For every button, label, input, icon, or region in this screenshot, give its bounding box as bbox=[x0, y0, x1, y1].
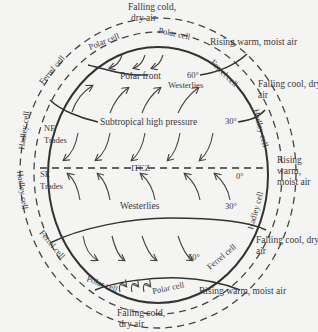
falling-top-label-1: Falling cool, dry bbox=[258, 79, 318, 89]
top-falling-label-2: dry air bbox=[131, 13, 157, 23]
westerlies-south-label: Westerlies bbox=[120, 201, 160, 211]
westerlies-north-label: Westerlies bbox=[168, 80, 203, 90]
ne-trades-arrows bbox=[64, 133, 213, 160]
lat-0: 0° bbox=[236, 171, 244, 181]
itcz-label: ITCZ bbox=[131, 163, 150, 173]
hadley-cell-l2: Hadley cell bbox=[15, 170, 30, 211]
falling-bot-label-1: Falling cool, dry bbox=[256, 235, 318, 245]
hadley-cell-l1: Hadley cell bbox=[16, 110, 31, 151]
se-trades-label-1: SE bbox=[40, 169, 50, 179]
falling-bot-label-2: air bbox=[256, 246, 267, 256]
lat-60s: 60° bbox=[188, 252, 200, 262]
top-falling-label-1: Falling cold, bbox=[128, 2, 176, 12]
ferrel-cell-tl: Ferrel cell bbox=[37, 53, 67, 86]
rising-mid-label-3: moist air bbox=[277, 177, 311, 187]
polar-arrows-north bbox=[110, 55, 163, 68]
hadley-cell-r2: Hadley cell bbox=[245, 190, 265, 231]
rising-bot-label: Rising warm, moist air bbox=[199, 286, 287, 296]
lat-60n: 60° bbox=[187, 70, 199, 80]
westerlies-arrows-north bbox=[72, 86, 198, 113]
rising-mid-label-2: warm, bbox=[277, 166, 301, 176]
polar-cell-tr: Polar cell bbox=[158, 25, 192, 42]
bottom-falling-label-1: Falling cold, bbox=[117, 308, 165, 318]
se-trades-arrows bbox=[68, 174, 230, 200]
rising-top-label: Rising warm, moist air bbox=[210, 37, 298, 47]
polar-cell-tl: Polar cell bbox=[87, 30, 121, 52]
se-trades-label-2: Trades bbox=[40, 181, 63, 191]
lat-30n: 30° bbox=[225, 116, 237, 126]
ne-trades-label-1: NE bbox=[44, 123, 55, 133]
hadley-cell-r1: Hadley cell bbox=[251, 108, 271, 149]
lat-30s: 30° bbox=[225, 201, 237, 211]
south-30-line bbox=[50, 218, 266, 243]
westerlies-arrows-south bbox=[83, 236, 192, 260]
ne-trades-label-2: Trades bbox=[44, 135, 67, 145]
polar-cell-br: Polar cell bbox=[151, 279, 185, 296]
rising-mid-label-1: Rising bbox=[277, 155, 302, 165]
atmospheric-circulation-diagram: Falling cold, dry air Rising warm, moist… bbox=[0, 0, 318, 332]
polar-front-label: Polar front bbox=[120, 71, 161, 81]
subtropical-high-label: Subtropical high pressure bbox=[100, 117, 197, 127]
bottom-falling-label-2: dry air bbox=[119, 319, 145, 329]
polar-arrows-south bbox=[119, 284, 150, 292]
falling-top-label-2: air bbox=[258, 90, 269, 100]
